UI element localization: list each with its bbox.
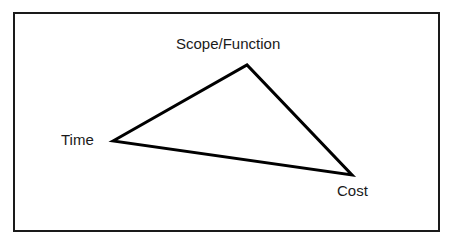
vertex-label-time: Time bbox=[61, 132, 94, 147]
diagram-canvas: Scope/Function Time Cost bbox=[0, 0, 457, 246]
vertex-label-cost: Cost bbox=[337, 183, 368, 198]
triangle-outline bbox=[113, 65, 352, 175]
vertex-label-scope-function: Scope/Function bbox=[176, 36, 280, 51]
